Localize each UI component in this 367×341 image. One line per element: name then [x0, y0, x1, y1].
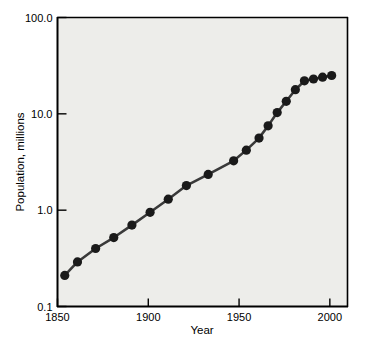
- x-tick-label-1900: 1900: [136, 311, 160, 323]
- chart-figure: 0.11.010.0100.0 1850190019502000 Year Po…: [0, 0, 367, 341]
- data-point: [291, 85, 300, 94]
- plot-area-background: [57, 17, 348, 307]
- data-point: [204, 170, 213, 179]
- data-point: [309, 74, 318, 83]
- data-point: [146, 208, 155, 217]
- x-tick-label-1950: 1950: [227, 311, 251, 323]
- data-point: [109, 233, 118, 242]
- data-point: [264, 121, 273, 130]
- data-point: [73, 257, 82, 266]
- data-point: [127, 220, 136, 229]
- x-tick-label-2000: 2000: [318, 311, 342, 323]
- data-point: [300, 76, 309, 85]
- data-point: [91, 244, 100, 253]
- y-axis-label: Population, millions: [14, 112, 26, 211]
- x-tick-label-1850: 1850: [45, 311, 69, 323]
- data-point: [318, 73, 327, 82]
- data-point: [164, 195, 173, 204]
- data-point: [182, 181, 191, 190]
- x-axis-label: Year: [190, 324, 213, 336]
- data-point: [229, 156, 238, 165]
- population-log-chart: 0.11.010.0100.0 1850190019502000 Year Po…: [0, 0, 367, 341]
- data-point: [242, 146, 251, 155]
- y-tick-label-10.0: 10.0: [31, 108, 52, 120]
- y-tick-label-100.0: 100.0: [25, 12, 53, 24]
- y-tick-label-1.0: 1.0: [37, 204, 52, 216]
- data-point: [254, 133, 263, 142]
- data-point: [273, 108, 282, 117]
- data-point: [282, 97, 291, 106]
- data-point: [60, 271, 69, 280]
- data-point: [327, 71, 336, 80]
